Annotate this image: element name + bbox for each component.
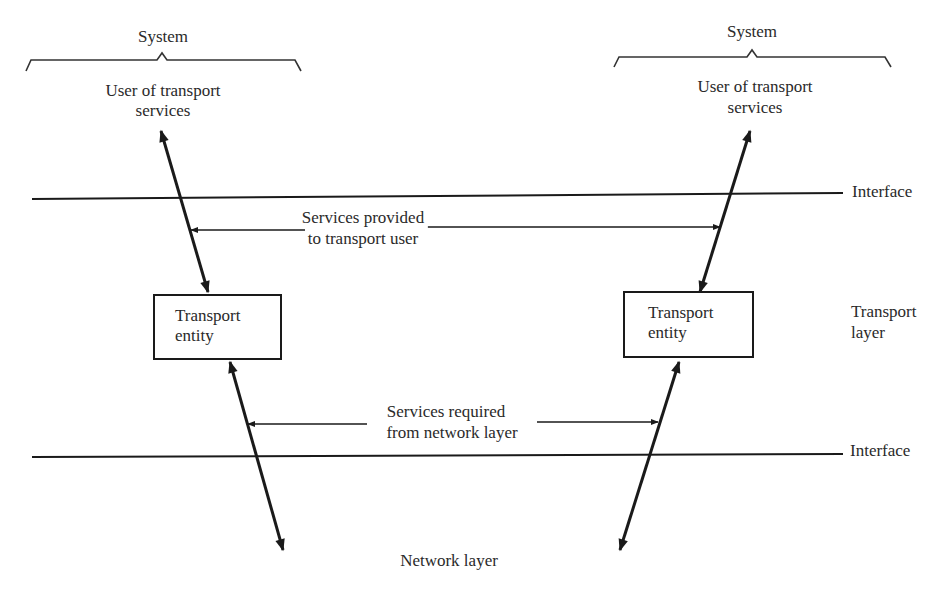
left-entity-label-line2: entity	[155, 326, 280, 346]
transport-layer-label-line1: Transport	[851, 302, 917, 322]
right-system-label: System	[727, 22, 777, 42]
left-user-label-line2: services	[136, 101, 191, 121]
right-lower-arrow	[620, 362, 679, 550]
services-provided-label-line2: to transport user	[308, 229, 418, 249]
right-entity-label-line1: Transport	[625, 303, 752, 323]
right-entity-label-line2: entity	[625, 323, 752, 343]
left-user-label-line1: User of transport	[105, 81, 220, 101]
left-system-brace	[26, 53, 301, 71]
right-transport-entity-box: Transport entity	[623, 291, 754, 358]
transport-layer-label-line2: layer	[851, 323, 885, 343]
right-user-label-line1: User of transport	[697, 77, 812, 97]
services-required-label-line2: from network layer	[382, 423, 521, 443]
left-entity-label-line1: Transport	[155, 306, 280, 326]
left-upper-arrow	[161, 131, 208, 292]
transport-layer-diagram: System User of transport services System…	[0, 0, 952, 599]
right-system-brace	[614, 50, 891, 67]
network-layer-label: Network layer	[400, 551, 498, 571]
upper-interface-line	[32, 193, 843, 199]
left-system-label: System	[138, 27, 188, 47]
upper-interface-label: Interface	[852, 182, 912, 202]
right-upper-arrow	[700, 131, 750, 292]
services-required-label-line1: Services required	[383, 402, 509, 422]
left-transport-entity-box: Transport entity	[153, 294, 282, 360]
services-provided-label-line1: Services provided	[298, 208, 428, 228]
lower-interface-line	[32, 454, 843, 457]
lower-interface-label: Interface	[850, 441, 910, 461]
right-user-label-line2: services	[728, 98, 783, 118]
